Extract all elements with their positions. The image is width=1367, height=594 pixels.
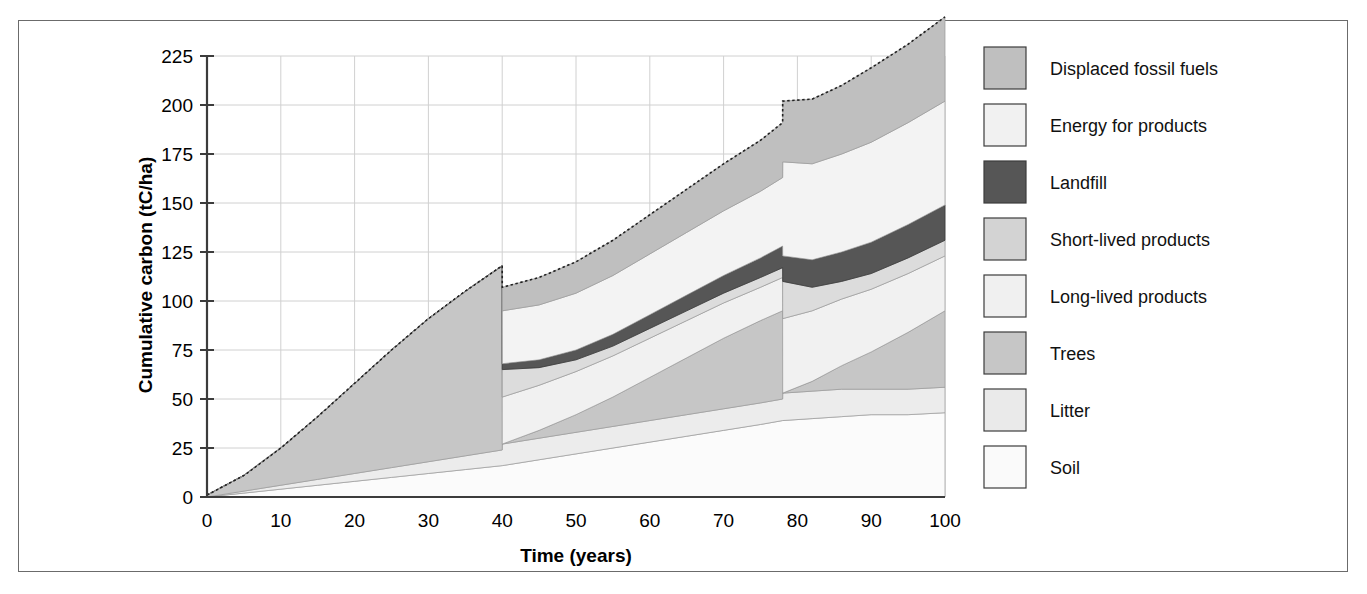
legend-label: Long-lived products <box>1050 287 1207 307</box>
y-tick-label: 50 <box>172 389 193 410</box>
x-tick-label: 50 <box>565 510 586 531</box>
legend-item[interactable]: Soil <box>984 446 1080 488</box>
legend-swatch <box>984 332 1026 374</box>
x-tick-label: 70 <box>713 510 734 531</box>
legend-item[interactable]: Litter <box>984 389 1090 431</box>
legend-label: Energy for products <box>1050 116 1207 136</box>
x-tick-label: 90 <box>861 510 882 531</box>
y-tick-label: 0 <box>182 487 193 508</box>
x-tick-label: 100 <box>929 510 961 531</box>
stacked-area-chart: 0255075100125150175200225010203040506070… <box>0 0 1367 594</box>
legend-label: Short-lived products <box>1050 230 1210 250</box>
x-tick-label: 0 <box>202 510 213 531</box>
x-tick-label: 10 <box>270 510 291 531</box>
legend-item[interactable]: Short-lived products <box>984 218 1210 260</box>
legend-label: Displaced fossil fuels <box>1050 59 1218 79</box>
legend-item[interactable]: Long-lived products <box>984 275 1207 317</box>
legend-swatch <box>984 275 1026 317</box>
legend-label: Litter <box>1050 401 1090 421</box>
legend: Displaced fossil fuelsEnergy for product… <box>984 47 1218 488</box>
x-tick-label: 60 <box>639 510 660 531</box>
x-tick-label: 20 <box>344 510 365 531</box>
legend-item[interactable]: Trees <box>984 332 1095 374</box>
y-tick-label: 125 <box>161 242 193 263</box>
legend-item[interactable]: Displaced fossil fuels <box>984 47 1218 89</box>
legend-swatch <box>984 104 1026 146</box>
x-tick-label: 80 <box>787 510 808 531</box>
y-tick-label: 150 <box>161 193 193 214</box>
chart-svg: 0255075100125150175200225010203040506070… <box>0 0 1367 594</box>
x-tick-label: 30 <box>418 510 439 531</box>
legend-label: Soil <box>1050 458 1080 478</box>
legend-swatch <box>984 161 1026 203</box>
y-tick-label: 225 <box>161 46 193 67</box>
legend-swatch <box>984 47 1026 89</box>
legend-item[interactable]: Energy for products <box>984 104 1207 146</box>
y-tick-label: 175 <box>161 144 193 165</box>
x-axis-title: Time (years) <box>520 545 632 566</box>
legend-swatch <box>984 218 1026 260</box>
y-tick-label: 100 <box>161 291 193 312</box>
x-tick-label: 40 <box>492 510 513 531</box>
legend-label: Trees <box>1050 344 1095 364</box>
legend-item[interactable]: Landfill <box>984 161 1107 203</box>
legend-swatch <box>984 446 1026 488</box>
y-tick-label: 75 <box>172 340 193 361</box>
y-axis-title: Cumulative carbon (tC/ha) <box>135 157 156 393</box>
legend-swatch <box>984 389 1026 431</box>
y-tick-label: 200 <box>161 95 193 116</box>
y-tick-label: 25 <box>172 438 193 459</box>
legend-label: Landfill <box>1050 173 1107 193</box>
